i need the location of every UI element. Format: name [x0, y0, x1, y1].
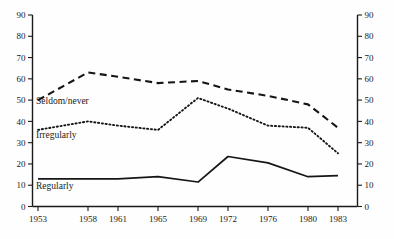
left-tick-label: 80 [17, 31, 27, 41]
chart-svg: 0102030405060708090 0102030405060708090 … [0, 0, 394, 239]
series-line-irregularly [38, 98, 338, 153]
series-lines [38, 72, 338, 182]
x-axis: 195319581961196519691972197619801983 [29, 207, 358, 225]
right-tick-label: 70 [365, 53, 375, 63]
left-tick-label: 10 [17, 180, 27, 190]
x-tick-label: 1983 [329, 214, 348, 224]
series-line-regularly [38, 156, 338, 182]
x-tick-label: 1969 [189, 214, 208, 224]
x-tick-label: 1972 [219, 214, 237, 224]
right-tick-label: 0 [365, 202, 370, 212]
x-tick-label: 1958 [79, 214, 98, 224]
line-chart: 0102030405060708090 0102030405060708090 … [0, 0, 394, 239]
left-tick-label: 60 [17, 74, 27, 84]
x-tick-label: 1980 [299, 214, 318, 224]
right-axis: 0102030405060708090 [358, 10, 375, 212]
x-tick-label: 1965 [149, 214, 168, 224]
right-tick-label: 10 [365, 180, 375, 190]
series-label-irregularly: Irregularly [36, 130, 77, 140]
series-label-seldom-never: Seldom/never [36, 96, 90, 106]
series-labels: Seldom/neverIrregularlyRegularly [36, 96, 90, 191]
left-tick-label: 90 [17, 10, 27, 20]
left-tick-label: 40 [17, 117, 27, 127]
left-tick-label: 70 [17, 53, 27, 63]
left-tick-label: 50 [17, 95, 27, 105]
right-tick-label: 50 [365, 95, 375, 105]
x-tick-label: 1961 [109, 214, 127, 224]
right-tick-label: 40 [365, 117, 375, 127]
right-tick-label: 80 [365, 31, 375, 41]
right-tick-label: 60 [365, 74, 375, 84]
right-tick-label: 20 [365, 159, 375, 169]
series-label-regularly: Regularly [36, 181, 74, 191]
left-tick-label: 30 [17, 138, 27, 148]
x-tick-label: 1976 [259, 214, 278, 224]
left-tick-label: 0 [21, 202, 26, 212]
left-tick-label: 20 [17, 159, 27, 169]
x-tick-label: 1953 [29, 214, 48, 224]
right-tick-label: 90 [365, 10, 375, 20]
right-tick-label: 30 [365, 138, 375, 148]
left-axis: 0102030405060708090 [17, 10, 33, 212]
